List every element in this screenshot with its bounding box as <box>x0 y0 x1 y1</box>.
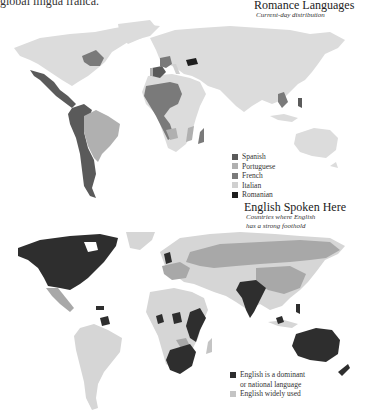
legend-item-widely-used: English widely used <box>230 389 305 399</box>
swatch-portuguese <box>232 163 238 169</box>
english-map-subtitle: Countries where English has a strong foo… <box>246 213 315 231</box>
region-guyana-dominant <box>100 316 110 326</box>
region-madagascar-french <box>198 128 204 144</box>
swatch-french <box>232 173 238 179</box>
legend-item-portuguese: Portuguese <box>232 162 275 172</box>
region-philippines-dominant <box>296 304 300 314</box>
romance-languages-map <box>0 20 366 210</box>
swatch-romanian <box>232 192 238 198</box>
legend-item-italian: Italian <box>232 181 275 191</box>
region-france <box>160 56 172 68</box>
region-portugal <box>150 68 153 76</box>
swatch-italian <box>232 182 238 188</box>
legend-item-spanish: Spanish <box>232 152 275 162</box>
romance-legend: Spanish Portuguese French Italian Romani… <box>232 152 275 200</box>
english-legend: English is a dominantor national languag… <box>230 370 305 399</box>
region-madagascar-widely-used <box>206 338 212 354</box>
top-caption: global lingua franca. <box>0 0 99 9</box>
legend-item-french: French <box>232 171 275 181</box>
region-new-zealand-dominant <box>338 364 350 376</box>
swatch-dominant <box>230 372 236 378</box>
swatch-widely-used <box>230 391 236 397</box>
region-north-america-dominant <box>18 234 118 290</box>
region-mexico-widely-used <box>46 288 74 312</box>
region-philippines-spanish <box>298 98 302 108</box>
legend-item-dominant: English is a dominantor national languag… <box>230 370 305 389</box>
region-caribbean-dominant <box>96 306 104 310</box>
english-spoken-map <box>0 232 366 412</box>
legend-item-romanian: Romanian <box>232 190 275 200</box>
romance-map-subtitle: Current-day distribution <box>256 11 325 20</box>
swatch-spanish <box>232 154 238 160</box>
region-australia-dominant <box>292 328 340 362</box>
